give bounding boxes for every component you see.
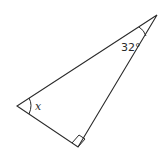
angle-arc-left (29, 98, 31, 114)
triangle-diagram: 32° x (0, 0, 166, 159)
angle-label-top: 32° (121, 41, 141, 54)
triangle (17, 15, 157, 147)
angle-label-left: x (35, 100, 42, 113)
